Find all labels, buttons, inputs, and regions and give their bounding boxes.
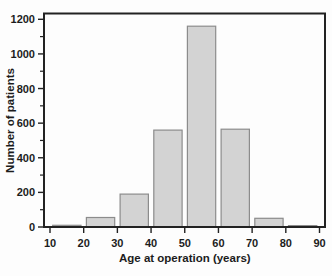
x-tick-label: 80 xyxy=(280,237,292,249)
y-tick-label: 600 xyxy=(17,117,35,129)
x-tick-label: 40 xyxy=(145,237,157,249)
y-tick-label: 0 xyxy=(29,221,35,233)
y-axis-title: Number of patients xyxy=(4,68,16,173)
y-tick-label: 1200 xyxy=(11,13,35,25)
x-axis-title: Age at operation (years) xyxy=(119,252,251,264)
x-tick-label: 70 xyxy=(246,237,258,249)
histogram-figure: 102030405060708090020040060080010001200 … xyxy=(0,0,332,276)
histogram-bar xyxy=(255,218,283,227)
x-tick-label: 50 xyxy=(179,237,191,249)
y-tick-label: 200 xyxy=(17,186,35,198)
plot-frame xyxy=(44,14,325,228)
histogram-bar xyxy=(86,218,114,228)
x-tick-label: 90 xyxy=(313,237,325,249)
y-tick-label: 400 xyxy=(17,152,35,164)
frame-layer xyxy=(44,14,325,228)
histogram-bar xyxy=(120,194,148,227)
histogram-bar xyxy=(154,130,182,227)
histogram-bar xyxy=(187,26,215,227)
y-tick-label: 800 xyxy=(17,83,35,95)
x-tick-label: 20 xyxy=(78,237,90,249)
x-tick-label: 60 xyxy=(212,237,224,249)
x-tick-label: 10 xyxy=(44,237,56,249)
bars-layer xyxy=(53,26,317,227)
x-tick-label: 30 xyxy=(111,237,123,249)
histogram-bar xyxy=(221,129,249,227)
histogram-chart: 102030405060708090020040060080010001200 … xyxy=(0,0,332,276)
y-tick-label: 1000 xyxy=(11,48,35,60)
